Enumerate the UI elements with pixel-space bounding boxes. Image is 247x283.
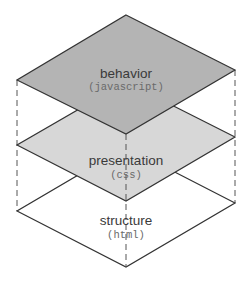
structure-tech-label: (html) <box>107 229 145 241</box>
presentation-label: presentation <box>89 153 163 168</box>
behavior-label: behavior <box>100 66 152 81</box>
diagram-canvas: behavior (javascript) presentation (css)… <box>0 0 247 283</box>
layer-stack-diagram: behavior (javascript) presentation (css)… <box>0 0 247 283</box>
structure-label: structure <box>100 213 153 228</box>
behavior-tech-label: (javascript) <box>88 81 164 93</box>
presentation-tech-label: (css) <box>110 169 142 181</box>
